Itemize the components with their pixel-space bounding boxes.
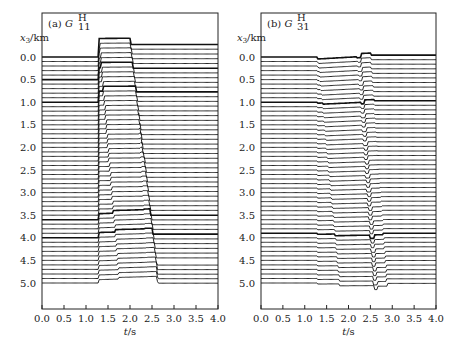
y-tick-label: 5.0 (239, 278, 255, 289)
x-tick-label: 0.0 (253, 313, 269, 324)
trace-line (42, 147, 218, 161)
y-axis-label: x3/km (20, 32, 50, 45)
panel-b: 0.00.51.01.52.02.53.03.54.0t/s0.00.51.01… (237, 12, 444, 337)
x-tick-label: 1.5 (319, 313, 335, 324)
y-tick-label: 4.0 (20, 232, 36, 243)
panel-title: (b) G (267, 18, 292, 29)
trace-line (261, 62, 436, 68)
y-tick-label: 4.5 (20, 255, 36, 266)
y-tick-label: 4.0 (239, 232, 255, 243)
trace-line (42, 267, 218, 275)
y-tick-label: 0.5 (239, 74, 255, 85)
x-axis-label: t/s (342, 326, 355, 337)
y-tick-label: 0.0 (20, 52, 36, 63)
trace-line (261, 118, 436, 122)
x-tick-label: 0.5 (275, 313, 291, 324)
x-axis-label: t/s (124, 326, 137, 337)
x-tick-label: 2.5 (362, 313, 378, 324)
y-tick-label: 3.5 (239, 210, 255, 221)
trace-line (261, 146, 436, 150)
trace-line (261, 137, 436, 141)
y-tick-label: 1.5 (239, 119, 255, 130)
trace-line (42, 262, 218, 270)
x-tick-label: 3.5 (188, 313, 204, 324)
trace-line (261, 183, 436, 188)
y-tick-label: 1.0 (20, 97, 36, 108)
trace-line (261, 100, 436, 105)
x-axis: 0.00.51.01.52.02.53.03.54.0t/s (34, 305, 226, 337)
trace-line (261, 76, 436, 81)
y-tick-label: 4.5 (239, 255, 255, 266)
trace-line (42, 105, 218, 120)
x-tick-label: 2.0 (122, 313, 138, 324)
trace-line (261, 132, 436, 136)
y-tick-label: 2.5 (20, 165, 36, 176)
trace-line (261, 201, 436, 206)
y-axis-label: x3/km (237, 32, 267, 45)
x-axis: 0.00.51.01.52.02.53.03.54.0t/s (253, 305, 444, 337)
trace-line (261, 67, 436, 73)
x-tick-label: 3.0 (384, 313, 400, 324)
y-tick-label: 0.5 (20, 74, 36, 85)
trace-line (261, 123, 436, 127)
trace-line (261, 192, 436, 197)
trace-line (261, 169, 436, 173)
trace-line (261, 58, 436, 64)
trace-line (261, 53, 436, 59)
x-tick-label: 0.0 (34, 313, 50, 324)
trace-line (42, 276, 218, 283)
trace-line (261, 279, 436, 286)
x-tick-label: 4.0 (210, 313, 226, 324)
trace-line (261, 188, 436, 193)
trace-line (261, 141, 436, 145)
x-tick-label: 2.5 (144, 313, 160, 324)
y-tick-label: 3.0 (20, 187, 36, 198)
trace-line (261, 178, 436, 182)
trace-line (261, 95, 436, 100)
y-tick-label: 1.0 (239, 97, 255, 108)
trace-line (261, 174, 436, 178)
trace-line (261, 165, 436, 169)
trace-line (42, 120, 218, 134)
trace-line (261, 283, 436, 290)
y-tick-label: 1.5 (20, 119, 36, 130)
trace-line (261, 160, 436, 164)
trace-line (261, 104, 436, 109)
y-tick-label: 3.0 (239, 187, 255, 198)
x-tick-label: 1.5 (100, 313, 116, 324)
panel-a: 0.00.51.01.52.02.53.03.54.0t/s0.00.51.01… (20, 12, 226, 337)
trace-line (261, 109, 436, 113)
traces (261, 53, 436, 290)
panel-title-subscript: 11 (78, 21, 91, 32)
trace-line (42, 152, 218, 166)
y-tick-label: 2.5 (239, 165, 255, 176)
y-tick-label: 5.0 (20, 278, 36, 289)
trace-line (42, 272, 218, 279)
y-tick-label: 0.0 (239, 52, 255, 63)
panel-title: (a) G (48, 18, 73, 29)
panel-title-subscript: 31 (297, 21, 310, 32)
x-tick-label: 3.5 (406, 313, 422, 324)
y-tick-label: 2.0 (239, 142, 255, 153)
traces (42, 38, 218, 283)
trace-line (42, 110, 218, 125)
trace-line (261, 155, 436, 159)
trace-line (261, 90, 436, 95)
x-tick-label: 1.0 (78, 313, 94, 324)
x-tick-label: 2.0 (341, 313, 357, 324)
trace-line (261, 197, 436, 202)
trace-line (261, 128, 436, 132)
x-tick-label: 1.0 (297, 313, 313, 324)
trace-line (261, 81, 436, 86)
trace-line (261, 274, 436, 280)
trace-line (261, 86, 436, 91)
trace-line (261, 114, 436, 118)
trace-line (261, 151, 436, 155)
trace-line (261, 72, 436, 77)
trace-line (261, 269, 436, 275)
x-tick-label: 0.5 (56, 313, 72, 324)
figure: 0.00.51.01.52.02.53.03.54.0t/s0.00.51.01… (0, 0, 456, 338)
y-tick-label: 3.5 (20, 210, 36, 221)
y-tick-label: 2.0 (20, 142, 36, 153)
x-tick-label: 4.0 (428, 313, 444, 324)
